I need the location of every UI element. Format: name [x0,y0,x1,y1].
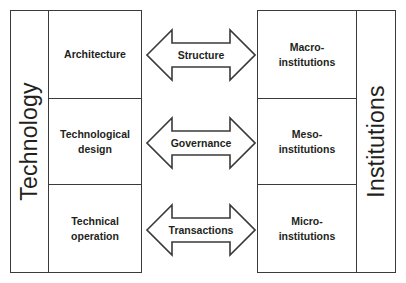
technology-group: Technology Architecture Technological de… [10,10,142,273]
cell-meso-institutions: Meso- institutions [258,98,356,185]
connector-transactions: Transactions [146,202,256,258]
cell-technological-design-line1: Technological [60,128,130,140]
connector-transactions-label: Transactions [146,202,256,258]
cell-architecture-label: Architecture [64,47,126,61]
cell-micro-institutions: Micro- institutions [258,185,356,272]
cell-meso-institutions-line1: Meso- [292,128,322,140]
technology-label-cell: Technology [11,11,49,272]
cell-technical-operation-line2: operation [71,230,119,242]
connector-governance-label: Governance [146,115,256,171]
cell-macro-institutions-label: Macro- institutions [279,40,336,68]
institutions-label: Institutions [365,85,388,197]
cell-architecture: Architecture [49,11,141,98]
connector-structure-label: Structure [146,27,256,83]
cell-technical-operation-line1: Technical [71,215,119,227]
institutions-label-cell: Institutions [356,11,395,272]
diagram-canvas: Technology Architecture Technological de… [0,0,406,283]
institutions-group: Macro- institutions Meso- institutions M… [257,10,396,273]
connector-structure: Structure [146,27,256,83]
cell-macro-institutions-line1: Macro- [290,41,324,53]
cell-technological-design-line2: design [78,143,112,155]
cell-micro-institutions-line1: Micro- [291,215,323,227]
institutions-cell-stack: Macro- institutions Meso- institutions M… [258,11,356,272]
cell-technical-operation: Technical operation [49,185,141,272]
cell-technological-design: Technological design [49,98,141,185]
technology-label: Technology [18,82,41,200]
cell-meso-institutions-line2: institutions [279,143,336,155]
cell-macro-institutions-line2: institutions [279,56,336,68]
cell-micro-institutions-label: Micro- institutions [279,214,336,242]
cell-meso-institutions-label: Meso- institutions [279,127,336,155]
cell-micro-institutions-line2: institutions [279,230,336,242]
cell-macro-institutions: Macro- institutions [258,11,356,98]
cell-technical-operation-label: Technical operation [71,214,119,242]
cell-technological-design-label: Technological design [60,127,130,155]
connector-governance: Governance [146,115,256,171]
technology-cell-stack: Architecture Technological design Techni… [49,11,141,272]
